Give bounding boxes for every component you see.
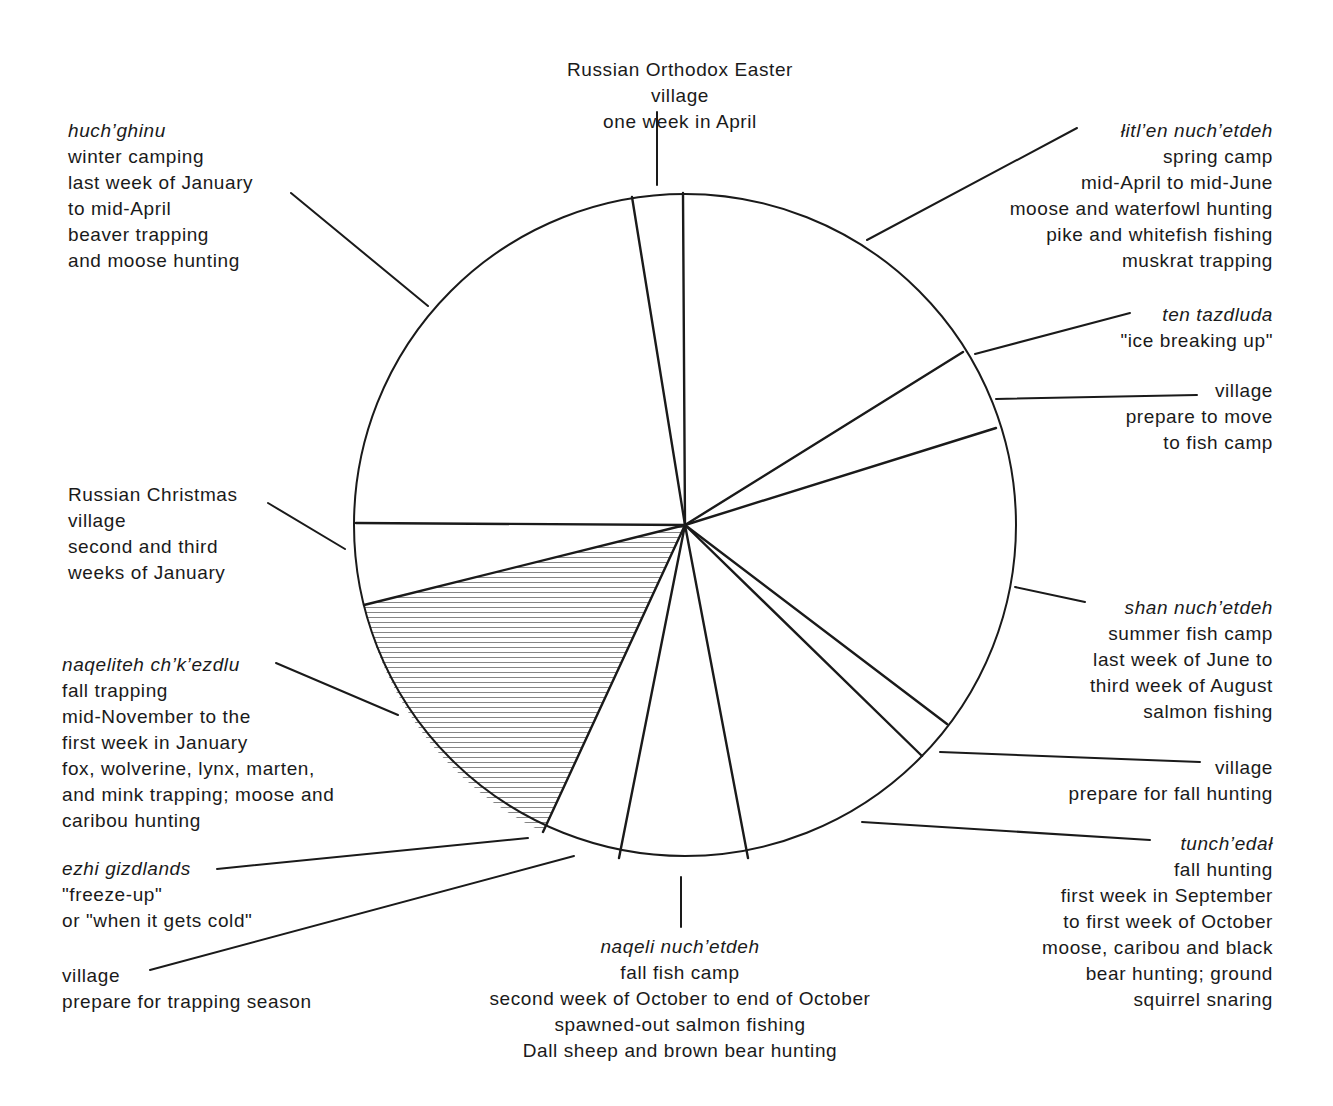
label-christmas-line: second and third (68, 534, 238, 560)
label-tunchedal-line: to first week of October (1042, 909, 1273, 935)
label-shan-line: summer fish camp (1090, 621, 1273, 647)
label-litlen-line: muskrat trapping (1010, 248, 1273, 274)
label-christmas-line: village (68, 508, 238, 534)
label-naqeliteh-line: first week in January (62, 730, 334, 756)
label-litlen-line: pike and whitefish fishing (1010, 222, 1273, 248)
label-village-fallhunt: village prepare for fall hunting (1068, 755, 1273, 807)
shaded-segment-fall-trapping (364, 525, 685, 832)
leader-christmas (268, 503, 345, 549)
label-easter-line: one week in April (520, 109, 840, 135)
label-christmas-line: weeks of January (68, 560, 238, 586)
label-tunchedal-line: moose, caribou and black (1042, 935, 1273, 961)
label-huchghinu-line: last week of January (68, 170, 253, 196)
label-naqeliteh-native: naqeliteh ch’k’ezdlu (62, 652, 334, 678)
label-ezhi-line: or "when it gets cold" (62, 908, 252, 934)
label-huchghinu-native: huch’ghinu (68, 118, 253, 144)
leader-tazdluda (975, 313, 1130, 354)
label-naqeliteh-line: and mink trapping; moose and (62, 782, 334, 808)
label-easter-line: village (520, 83, 840, 109)
label-village-fishcamp: village prepare to move to fish camp (1126, 378, 1273, 456)
label-easter: Russian Orthodox Easter village one week… (520, 57, 840, 135)
label-shan-line: salmon fishing (1090, 699, 1273, 725)
label-naqeliteh-line: caribou hunting (62, 808, 334, 834)
label-tunchedal-line: first week in September (1042, 883, 1273, 909)
label-ezhi-line: "freeze-up" (62, 882, 252, 908)
label-naqeliteh-line: fox, wolverine, lynx, marten, (62, 756, 334, 782)
leader-huchghinu (291, 193, 428, 306)
label-tunchedal: tunch’edał fall hunting first week in Se… (1042, 831, 1273, 1013)
label-village-fallhunt-line: prepare for fall hunting (1068, 781, 1273, 807)
label-village-fishcamp-line: village (1126, 378, 1273, 404)
label-tazdluda-line: "ice breaking up" (1120, 328, 1273, 354)
label-christmas: Russian Christmas village second and thi… (68, 482, 238, 586)
label-christmas-line: Russian Christmas (68, 482, 238, 508)
label-litlen-line: spring camp (1010, 144, 1273, 170)
label-shan: shan nuch’etdeh summer fish camp last we… (1090, 595, 1273, 725)
label-naqeli-line: Dall sheep and brown bear hunting (430, 1038, 930, 1064)
label-naqeliteh: naqeliteh ch’k’ezdlu fall trapping mid-N… (62, 652, 334, 834)
label-ezhi-native: ezhi gizdlands (62, 856, 252, 882)
label-naqeliteh-line: mid-November to the (62, 704, 334, 730)
label-litlen-line: moose and waterfowl hunting (1010, 196, 1273, 222)
label-shan-native: shan nuch’etdeh (1090, 595, 1273, 621)
label-easter-line: Russian Orthodox Easter (520, 57, 840, 83)
label-tunchedal-line: fall hunting (1042, 857, 1273, 883)
label-huchghinu: huch’ghinu winter camping last week of J… (68, 118, 253, 274)
label-naqeli-native: naqeli nuch’etdeh (430, 934, 930, 960)
label-naqeliteh-line: fall trapping (62, 678, 334, 704)
label-village-fishcamp-line: prepare to move (1126, 404, 1273, 430)
label-huchghinu-line: winter camping (68, 144, 253, 170)
label-naqeli-line: spawned-out salmon fishing (430, 1012, 930, 1038)
label-naqeli-line: second week of October to end of October (430, 986, 930, 1012)
label-huchghinu-line: to mid-April (68, 196, 253, 222)
label-naqeli-line: fall fish camp (430, 960, 930, 986)
label-naqeli: naqeli nuch’etdeh fall fish camp second … (430, 934, 930, 1064)
label-village-trapping-line: prepare for trapping season (62, 989, 312, 1015)
label-village-fallhunt-line: village (1068, 755, 1273, 781)
label-ezhi: ezhi gizdlands "freeze-up" or "when it g… (62, 856, 252, 934)
leader-shan (1015, 587, 1085, 602)
label-shan-line: last week of June to (1090, 647, 1273, 673)
label-huchghinu-line: beaver trapping (68, 222, 253, 248)
label-tazdluda: ten tazdluda "ice breaking up" (1120, 302, 1273, 354)
label-village-fishcamp-line: to fish camp (1126, 430, 1273, 456)
label-huchghinu-line: and moose hunting (68, 248, 253, 274)
label-tunchedal-line: bear hunting; ground (1042, 961, 1273, 987)
label-litlen-native: łitl’en nuch’etdeh (1010, 118, 1273, 144)
label-village-trapping: village prepare for trapping season (62, 963, 312, 1015)
label-tunchedal-native: tunch’edał (1042, 831, 1273, 857)
leader-ezhi (217, 838, 528, 869)
label-tazdluda-native: ten tazdluda (1120, 302, 1273, 328)
label-tunchedal-line: squirrel snaring (1042, 987, 1273, 1013)
label-litlen: łitl’en nuch’etdeh spring camp mid-April… (1010, 118, 1273, 274)
label-shan-line: third week of August (1090, 673, 1273, 699)
label-village-trapping-line: village (62, 963, 312, 989)
label-litlen-line: mid-April to mid-June (1010, 170, 1273, 196)
